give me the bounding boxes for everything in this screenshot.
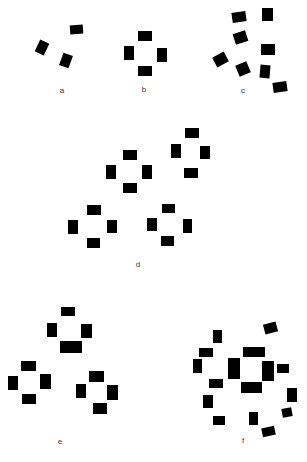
cluster-f-rectangle (241, 382, 262, 393)
cluster-d-rectangle (106, 165, 116, 179)
cluster-a-rectangle (70, 25, 84, 35)
cluster-d-rectangle (162, 204, 175, 213)
cluster-e-rectangle (81, 324, 92, 338)
panel-label-b: b (142, 86, 146, 94)
cluster-f-rectangle (261, 426, 276, 438)
cluster-e-rectangle (107, 385, 118, 400)
panel-label-f: f (242, 437, 244, 445)
cluster-c-rectangle (235, 61, 251, 77)
cluster-c-rectangle (272, 81, 287, 93)
cluster-e-rectangle (61, 307, 75, 316)
cluster-f-rectangle (203, 395, 213, 408)
cluster-f-rectangle (193, 359, 202, 373)
cluster-f-rectangle (199, 348, 213, 357)
cluster-d-rectangle (183, 219, 192, 233)
cluster-d-rectangle (171, 144, 181, 158)
cluster-c-rectangle (262, 8, 273, 21)
cluster-a-rectangle (59, 53, 73, 69)
cluster-f-rectangle (262, 361, 274, 381)
cluster-c-rectangle (212, 52, 229, 68)
cluster-d-rectangle (123, 150, 137, 160)
cluster-d-rectangle (184, 168, 198, 178)
cluster-b-rectangle (138, 31, 152, 41)
cluster-b-rectangle (138, 66, 152, 76)
cluster-e-rectangle (76, 384, 86, 398)
cluster-e-rectangle (93, 403, 107, 414)
cluster-d-rectangle (185, 128, 199, 138)
cluster-f-rectangle (277, 364, 289, 373)
cluster-e-rectangle (89, 371, 104, 382)
cluster-c-rectangle (233, 30, 249, 44)
cluster-d-rectangle (107, 220, 117, 233)
cluster-f-rectangle (281, 407, 292, 418)
cluster-f-rectangle (243, 347, 265, 357)
cluster-d-rectangle (87, 238, 100, 248)
cluster-d-rectangle (147, 218, 157, 231)
panel-label-e: e (58, 438, 62, 446)
cluster-d-rectangle (87, 205, 101, 215)
panel-label-d: d (136, 261, 140, 269)
cluster-f-rectangle (213, 416, 225, 425)
cluster-e-rectangle (8, 376, 18, 390)
cluster-f-rectangle (287, 388, 297, 402)
cluster-d-rectangle (68, 220, 78, 234)
cluster-d-rectangle (123, 183, 137, 193)
figure-canvas: abcdef (0, 0, 307, 462)
cluster-a-rectangle (35, 39, 50, 55)
cluster-c-rectangle (259, 65, 270, 79)
cluster-c-rectangle (231, 11, 246, 23)
cluster-f-rectangle (213, 330, 222, 343)
cluster-f-rectangle (249, 412, 258, 425)
cluster-f-rectangle (263, 321, 278, 334)
cluster-e-rectangle (21, 361, 36, 371)
cluster-f-rectangle (228, 358, 240, 379)
cluster-d-rectangle (161, 236, 174, 246)
panel-label-a: a (60, 87, 64, 95)
cluster-e-rectangle (47, 323, 57, 337)
cluster-c-rectangle (261, 44, 275, 55)
cluster-e-rectangle (40, 374, 51, 389)
cluster-e-rectangle (60, 341, 82, 353)
cluster-b-rectangle (157, 48, 167, 62)
cluster-d-rectangle (142, 165, 152, 179)
cluster-f-rectangle (209, 379, 223, 388)
cluster-b-rectangle (124, 46, 134, 60)
cluster-e-rectangle (22, 394, 36, 404)
cluster-d-rectangle (200, 146, 210, 159)
panel-label-c: c (241, 87, 245, 95)
